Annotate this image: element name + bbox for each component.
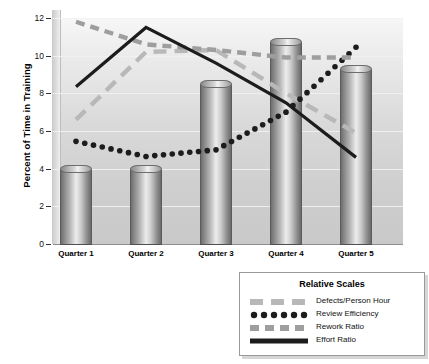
legend-label: Defects/Person Hour	[316, 296, 390, 305]
legend-label: Rework Ratio	[316, 322, 364, 331]
legend-items: Defects/Person HourReview EfficiencyRewo…	[248, 294, 424, 346]
x-tick-label: Quarter 3	[198, 249, 234, 258]
x-tick-label: Quarter 2	[128, 249, 164, 258]
x-tick-label: Quarter 5	[338, 249, 374, 258]
y-tick-label: 12	[35, 13, 53, 23]
legend-item[interactable]: Rework Ratio	[248, 320, 424, 333]
legend-swatch-icon	[248, 333, 310, 346]
legend-item[interactable]: Effort Ratio	[248, 333, 424, 346]
legend-swatch-icon	[248, 307, 310, 320]
line-series-overlay	[53, 18, 403, 244]
x-tick-label: Quarter 1	[58, 249, 94, 258]
y-axis-title: Percent of Time in Training	[21, 26, 32, 226]
legend-item[interactable]: Defects/Person Hour	[248, 294, 424, 307]
chart-figure: Percent of Time in Training 121086420 Qu…	[0, 0, 429, 364]
y-tick-label: 6	[39, 126, 53, 136]
legend-item[interactable]: Review Efficiency	[248, 307, 424, 320]
series-effort-ratio	[76, 27, 356, 157]
y-tick-label: 10	[35, 51, 53, 61]
legend-title: Relative Scales	[240, 279, 424, 289]
y-tick-label: 8	[39, 88, 53, 98]
y-tick-label: 0	[39, 239, 53, 249]
y-tick-label: 2	[39, 201, 53, 211]
legend-box: Relative Scales Defects/Person HourRevie…	[239, 272, 425, 356]
x-tick-label: Quarter 4	[268, 249, 304, 258]
plot-area: 121086420 Quarter 1Quarter 2Quarter 3Qua…	[53, 18, 403, 244]
legend-label: Review Efficiency	[316, 309, 379, 318]
y-tick-label: 4	[39, 164, 53, 174]
legend-label: Effort Ratio	[316, 335, 356, 344]
legend-swatch-icon	[248, 320, 310, 333]
legend-swatch-icon	[248, 294, 310, 307]
